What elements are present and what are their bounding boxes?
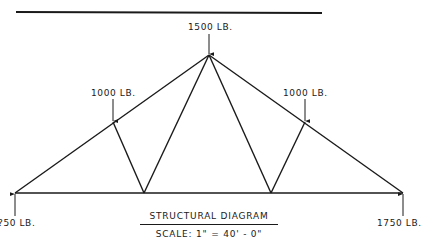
load-label-right-upper: 1000 LB. — [283, 88, 328, 98]
diagram-title: STRUCTURAL DIAGRAM — [140, 211, 278, 225]
web-left-diagonal — [144, 55, 209, 193]
web-right-diagonal — [209, 55, 271, 193]
diagram-scale: SCALE: 1" = 40' - 0" — [140, 229, 278, 239]
top-rule — [16, 12, 322, 13]
top-chord-right — [209, 55, 403, 193]
reaction-label-right: 1750 LB. — [377, 218, 422, 228]
title-block: STRUCTURAL DIAGRAM SCALE: 1" = 40' - 0" — [140, 211, 278, 239]
load-label-left-upper: 1000 LB. — [91, 88, 136, 98]
reaction-label-left: ?50 LB. — [0, 218, 35, 228]
web-left-vertical — [113, 122, 144, 193]
load-label-apex: 1500 LB. — [188, 22, 233, 32]
truss-members — [15, 55, 403, 193]
top-chord-left — [15, 55, 209, 193]
web-right-vertical — [271, 122, 305, 193]
load-arrows — [15, 34, 403, 216]
